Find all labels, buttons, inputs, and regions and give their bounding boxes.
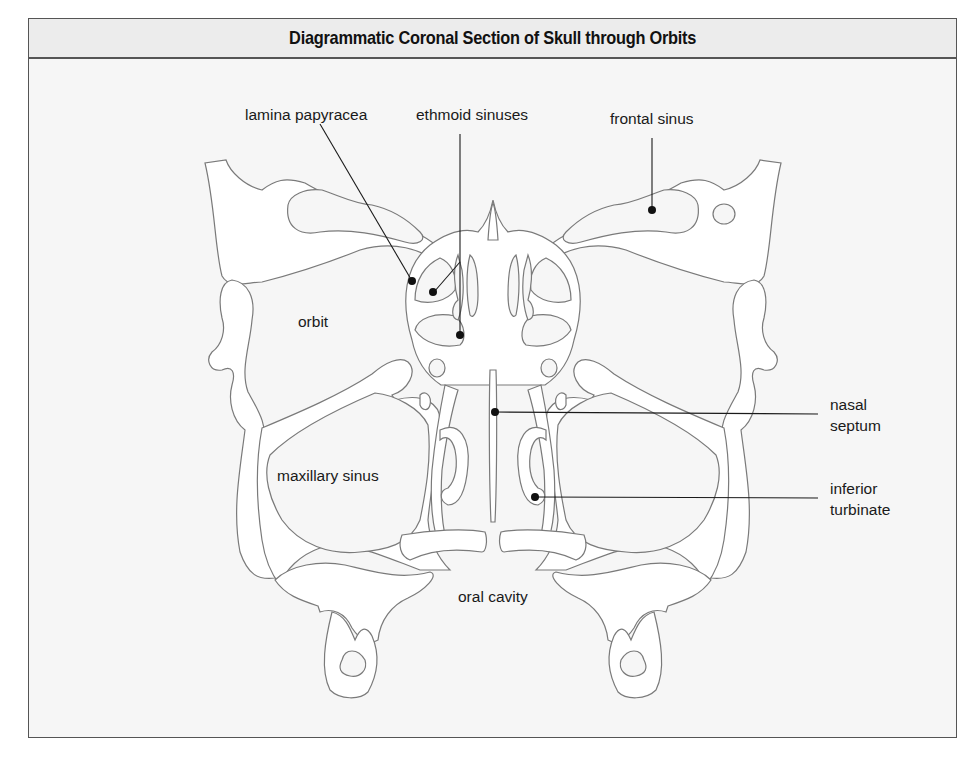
label-inferior-turbinate-2: turbinate (830, 501, 890, 518)
left-alveolar-process (275, 563, 433, 642)
pointer-ethmoid-upper (429, 288, 437, 296)
right-tooth-pulp (620, 651, 646, 676)
label-nasal-septum-1: nasal (830, 396, 867, 413)
pointer-nasal-septum (491, 408, 499, 416)
left-middle-turbinate-tip (420, 393, 430, 409)
label-orbit: orbit (298, 313, 329, 330)
label-oral-cavity: oral cavity (458, 588, 528, 605)
label-inferior-turbinate-1: inferior (830, 480, 877, 497)
left-hard-palate (400, 530, 486, 560)
crista-galli (488, 203, 498, 240)
right-alveolar-process (553, 563, 711, 642)
skull-coronal-diagram: lamina papyracea ethmoid sinuses frontal… (0, 0, 972, 757)
left-tooth-pulp (340, 651, 366, 676)
pointer-inferior-turbinate (531, 493, 539, 501)
label-maxillary-sinus: maxillary sinus (277, 467, 379, 484)
right-hard-palate (500, 530, 586, 560)
label-lamina-papyracea: lamina papyracea (245, 106, 368, 123)
right-skull-structures (536, 160, 781, 698)
label-nasal-septum-2: septum (830, 417, 881, 434)
label-ethmoid-sinuses: ethmoid sinuses (416, 106, 528, 123)
left-ethmoid-small-cell (429, 359, 445, 377)
right-frontal-foramen (713, 204, 735, 224)
right-ethmoid-small-cell (541, 359, 557, 377)
nasal-septum (489, 370, 496, 522)
left-skull-structures (205, 160, 450, 698)
pointer-lamina-papyracea (408, 277, 416, 285)
pointer-ethmoid-lower (456, 331, 464, 339)
label-frontal-sinus: frontal sinus (610, 110, 694, 127)
pointer-frontal-sinus (648, 206, 656, 214)
right-middle-turbinate-tip (556, 393, 566, 409)
